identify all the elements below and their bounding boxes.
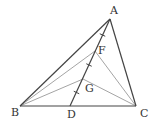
segment-AC	[110, 19, 136, 106]
point-label-C: C	[140, 107, 148, 120]
point-label-G: G	[85, 82, 94, 95]
geometry-figure: ABCDFG	[0, 0, 153, 123]
point-label-F: F	[98, 44, 106, 57]
point-label-B: B	[11, 106, 19, 119]
segment-BF	[20, 51, 95, 106]
point-label-D: D	[67, 108, 76, 121]
segment-CF	[95, 51, 136, 106]
segment-AB	[20, 19, 110, 106]
point-label-A: A	[109, 4, 119, 17]
